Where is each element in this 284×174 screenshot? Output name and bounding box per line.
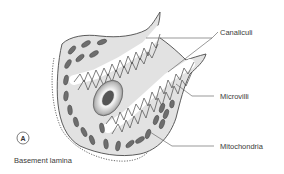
cell-body — [57, 12, 206, 156]
label-microvilli: Microvilli — [220, 92, 249, 101]
label-canaliculi: Canaliculi — [220, 28, 253, 37]
label-mitochondria: Mitochondria — [220, 142, 264, 151]
panel-label: A — [20, 135, 25, 142]
label-basement-lamina: Basement lamina — [14, 156, 73, 165]
panel-marker: A — [17, 132, 29, 144]
parietal-cell-diagram: Canaliculi Microvilli Mitochondria Basem… — [0, 0, 284, 174]
